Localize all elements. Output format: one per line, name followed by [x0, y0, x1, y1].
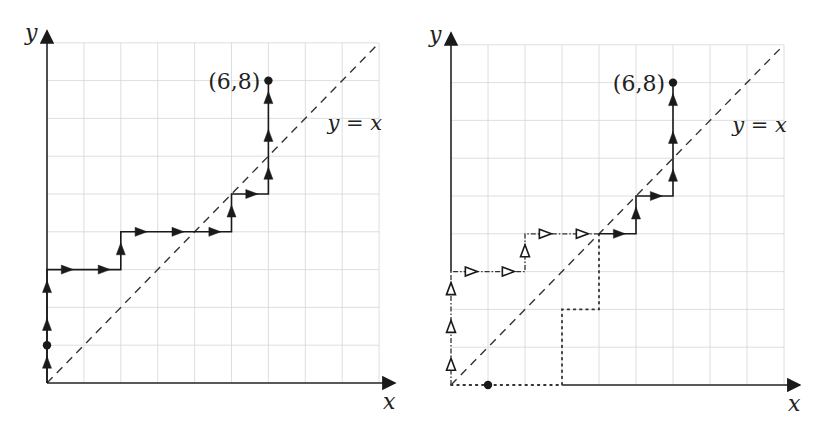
step-arrow-icon — [209, 227, 221, 236]
lattice-point-marker — [264, 76, 272, 84]
step-arrow-icon — [669, 169, 678, 181]
endpoint-label: (6,8) — [613, 71, 665, 96]
diagonal-label: y = x — [326, 111, 382, 135]
step-arrow-icon — [172, 227, 184, 236]
step-arrow-icon — [521, 245, 530, 257]
step-arrow-icon — [650, 192, 662, 201]
step-arrow-icon — [539, 229, 551, 238]
step-arrow-icon — [264, 92, 273, 104]
lattice-path-figure: yxy = x(6,8) yxy = x(6,8) — [0, 0, 818, 436]
step-arrow-icon — [116, 243, 125, 255]
step-arrow-icon — [669, 94, 678, 106]
x-axis-label: x — [383, 389, 396, 414]
step-arrow-icon — [43, 356, 52, 368]
step-arrow-icon — [98, 265, 110, 274]
lattice-point-marker — [43, 341, 51, 349]
step-arrow-icon — [43, 318, 52, 330]
diagonal-line — [451, 45, 784, 385]
left-panel: yxy = x(6,8) — [24, 20, 396, 414]
step-arrow-icon — [576, 229, 588, 238]
right-panel: yxy = x(6,8) — [428, 22, 801, 416]
step-arrow-icon — [61, 265, 73, 274]
step-arrow-icon — [264, 167, 273, 179]
step-arrow-icon — [669, 131, 678, 143]
step-arrow-icon — [135, 227, 147, 236]
step-arrow-icon — [632, 207, 641, 219]
step-arrow-icon — [447, 358, 456, 370]
endpoint-label: (6,8) — [208, 69, 260, 94]
step-arrow-icon — [447, 283, 456, 295]
step-arrow-icon — [43, 281, 52, 293]
step-arrow-icon — [465, 267, 477, 276]
diagonal-label: y = x — [731, 113, 787, 137]
y-axis-label: y — [24, 20, 38, 45]
lattice-point-marker — [669, 78, 677, 86]
lattice-point-marker — [484, 381, 492, 389]
diagonal-line — [47, 43, 379, 383]
y-axis-label: y — [428, 22, 442, 47]
step-arrow-icon — [502, 267, 514, 276]
x-axis-label: x — [788, 391, 801, 416]
step-arrow-icon — [246, 190, 258, 199]
step-arrow-icon — [613, 229, 625, 238]
step-arrow-icon — [447, 320, 456, 332]
step-arrow-icon — [264, 129, 273, 141]
step-arrow-icon — [227, 205, 236, 217]
